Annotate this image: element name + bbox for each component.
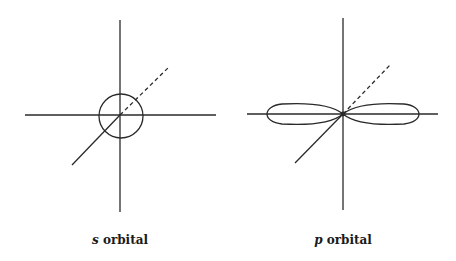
s-orbital-label-text: orbital — [99, 233, 148, 247]
p-orbital-node — [341, 112, 345, 116]
p-orbital-label-text: orbital — [323, 233, 372, 247]
p-depth-axis-back-dashed — [343, 64, 391, 114]
s-orbital-panel — [25, 20, 216, 212]
p-depth-axis-front — [295, 114, 343, 163]
s-depth-axis-front — [72, 115, 120, 165]
s-orbital-symbol: s — [92, 233, 99, 247]
p-orbital-panel — [247, 18, 438, 210]
s-orbital-label: s orbital — [92, 233, 148, 247]
s-depth-axis-back-dashed — [120, 66, 170, 115]
p-orbital-label: p orbital — [314, 233, 372, 247]
s-orbital-sphere — [99, 94, 143, 138]
orbital-diagram — [0, 0, 456, 261]
